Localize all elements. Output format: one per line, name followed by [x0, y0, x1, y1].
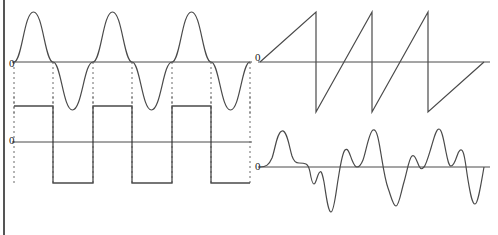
- sawtooth-wave-plot: [258, 8, 496, 116]
- waveform-figure: 0 0 0 0: [0, 0, 498, 235]
- left-margin-rule: [3, 0, 5, 235]
- square-wave-panel: [12, 96, 252, 191]
- sawtooth-zero-label: 0: [255, 52, 261, 63]
- complex-wave-plot: [258, 122, 496, 230]
- square-zero-label: 0: [9, 135, 15, 146]
- sine-zero-label: 0: [9, 58, 15, 69]
- complex-zero-label: 0: [255, 161, 261, 172]
- square-wave-curve: [14, 106, 250, 183]
- complex-wave-curve: [260, 129, 484, 212]
- sawtooth-wave-panel: [258, 8, 496, 116]
- square-wave-plot: [12, 96, 252, 191]
- complex-wave-panel: [258, 122, 496, 230]
